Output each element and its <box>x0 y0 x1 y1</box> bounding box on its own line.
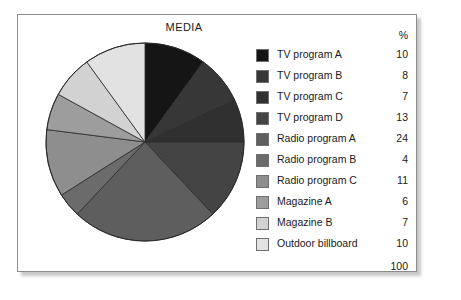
legend-item-value: 13 <box>396 111 408 123</box>
page-title: MEDIA <box>114 21 254 33</box>
legend-item-value: 4 <box>402 153 408 165</box>
screenshot-root: MEDIA % TV program A10TV program B8TV pr… <box>0 0 461 300</box>
legend-item[interactable]: TV program B8 <box>256 67 408 88</box>
legend-item-value: 6 <box>402 195 408 207</box>
legend-item[interactable]: TV program A10 <box>256 46 408 67</box>
legend-swatch <box>256 238 269 251</box>
legend-swatch <box>256 196 269 209</box>
legend-swatch <box>256 217 269 230</box>
legend-item-label: Outdoor billboard <box>277 237 358 249</box>
pie-chart-svg <box>44 41 246 243</box>
legend-item-value: 7 <box>402 90 408 102</box>
legend-item-value: 10 <box>396 237 408 249</box>
pie-chart <box>44 41 246 243</box>
legend-item[interactable]: Radio program A24 <box>256 130 408 151</box>
legend-item-label: TV program A <box>277 48 342 60</box>
legend-rows: TV program A10TV program B8TV program C7… <box>256 46 408 256</box>
legend-item-label: TV program B <box>277 69 342 81</box>
legend-swatch <box>256 154 269 167</box>
legend-swatch <box>256 133 269 146</box>
legend-item-label: TV program C <box>277 90 343 102</box>
legend-item[interactable]: Radio program C11 <box>256 172 408 193</box>
legend-swatch <box>256 112 269 125</box>
legend-item-value: 24 <box>396 132 408 144</box>
legend-item[interactable]: Magazine B7 <box>256 214 408 235</box>
legend-total-row: 100 <box>256 256 408 277</box>
legend-total-value: 100 <box>390 260 408 272</box>
legend-item-value: 8 <box>402 69 408 81</box>
legend-item[interactable]: Magazine A6 <box>256 193 408 214</box>
legend-item-value: 10 <box>396 48 408 60</box>
legend-item-value: 11 <box>397 174 408 186</box>
legend-swatch <box>256 49 269 62</box>
chart-panel: MEDIA % TV program A10TV program B8TV pr… <box>17 14 417 272</box>
legend-item[interactable]: TV program D13 <box>256 109 408 130</box>
legend-swatch <box>256 175 269 188</box>
legend-item-value: 7 <box>402 216 408 228</box>
legend-swatch <box>256 70 269 83</box>
legend-item-label: TV program D <box>277 111 343 123</box>
legend-header: % <box>256 29 408 46</box>
legend-item[interactable]: Outdoor billboard10 <box>256 235 408 256</box>
legend-item-label: Magazine A <box>277 195 332 207</box>
legend-swatch <box>256 91 269 104</box>
legend-item-label: Radio program C <box>277 174 357 186</box>
legend-item-label: Radio program A <box>277 132 356 144</box>
legend-item-label: Radio program B <box>277 153 356 165</box>
legend-item[interactable]: TV program C7 <box>256 88 408 109</box>
chart-legend: % TV program A10TV program B8TV program … <box>256 29 408 277</box>
legend-item[interactable]: Radio program B4 <box>256 151 408 172</box>
legend-percent-header: % <box>399 29 408 41</box>
legend-item-label: Magazine B <box>277 216 332 228</box>
